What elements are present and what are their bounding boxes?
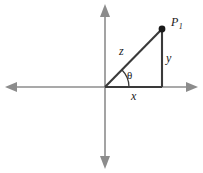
label-point-p1: P1 — [171, 16, 182, 28]
label-hypotenuse-z: z — [119, 45, 124, 57]
y-axis-up-arrowhead — [100, 4, 110, 17]
label-point-p1-letter: P — [171, 15, 178, 29]
label-horizontal-leg-x: x — [131, 90, 136, 102]
label-angle-theta: θ — [127, 70, 132, 81]
label-vertical-leg-y: y — [166, 52, 171, 64]
point-marker-p1 — [159, 26, 166, 33]
x-axis-left-arrowhead — [5, 82, 17, 92]
label-point-p1-subscript: 1 — [179, 22, 183, 31]
x-axis-group — [5, 82, 198, 92]
right-triangle-group — [105, 29, 162, 87]
y-axis-down-arrowhead — [100, 156, 110, 169]
x-axis-right-arrowhead — [186, 82, 198, 92]
hypotenuse-segment-z — [105, 29, 162, 87]
figure-canvas: P1 z y x θ — [0, 0, 203, 173]
